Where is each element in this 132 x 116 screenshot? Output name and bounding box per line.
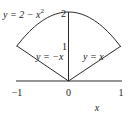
x-axis-label: x bbox=[94, 102, 100, 113]
parabola-label: y = 2 − x2 bbox=[2, 7, 44, 20]
x-tick-0: 0 bbox=[66, 87, 71, 98]
x-tick-1: 1 bbox=[119, 87, 124, 98]
y-tick-2: 2 bbox=[61, 8, 66, 19]
line-neg-label: y = −x bbox=[35, 51, 64, 62]
x-tick-neg1: −1 bbox=[12, 87, 23, 98]
line-pos-label: y = x bbox=[82, 51, 104, 62]
region-diagram: y = 2 − x2 2 1 y = −x y = x −1 0 1 x bbox=[0, 0, 132, 116]
